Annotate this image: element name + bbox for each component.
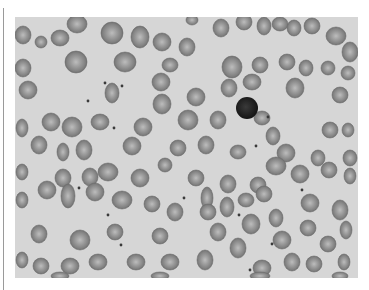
red-blood-cell	[284, 253, 300, 271]
red-blood-cell	[151, 272, 169, 278]
red-blood-cell	[287, 20, 301, 36]
red-blood-cell	[186, 17, 198, 25]
red-blood-cell	[152, 73, 170, 91]
red-blood-cell	[343, 150, 357, 166]
red-blood-cell	[213, 19, 229, 37]
red-blood-cell	[220, 197, 234, 217]
red-blood-cell	[179, 38, 195, 56]
platelet	[78, 187, 81, 190]
red-blood-cell	[332, 272, 348, 278]
platelet	[107, 214, 110, 217]
red-blood-cell	[221, 79, 237, 97]
red-blood-cell	[187, 88, 205, 106]
red-blood-cell	[198, 136, 214, 154]
red-blood-cell	[35, 36, 47, 48]
red-blood-cell	[76, 140, 92, 160]
red-blood-cell	[61, 184, 75, 208]
platelet	[249, 269, 252, 272]
platelet	[301, 189, 304, 192]
red-blood-cell	[89, 254, 107, 270]
red-blood-cell	[238, 193, 254, 207]
red-blood-cell	[320, 236, 336, 252]
red-blood-cell	[152, 228, 168, 244]
red-blood-cell	[62, 117, 82, 137]
red-blood-cell	[250, 272, 270, 278]
red-blood-cell	[33, 258, 49, 274]
red-blood-cell	[321, 61, 335, 75]
red-blood-cell	[178, 110, 198, 130]
red-blood-cell	[153, 33, 171, 51]
red-blood-cell	[170, 140, 186, 156]
red-blood-cell	[286, 78, 304, 98]
red-blood-cell	[322, 122, 338, 138]
red-blood-cell	[98, 163, 118, 181]
red-blood-cell	[123, 137, 141, 155]
blood-cells-canvas	[15, 17, 358, 278]
red-blood-cell	[242, 214, 260, 234]
red-blood-cell	[301, 194, 319, 212]
red-blood-cell	[326, 27, 346, 45]
red-blood-cell	[220, 175, 236, 193]
red-blood-cell	[344, 168, 356, 184]
red-blood-cell	[236, 17, 252, 30]
lymphocyte	[236, 97, 258, 119]
platelet	[238, 214, 241, 217]
red-blood-cell	[67, 17, 87, 33]
red-blood-cell	[127, 254, 145, 270]
red-blood-cell	[340, 221, 352, 239]
red-blood-cell	[342, 123, 354, 137]
platelet	[267, 116, 270, 119]
red-blood-cell	[101, 22, 123, 44]
left-border-rule	[3, 8, 4, 290]
red-blood-cell	[167, 203, 183, 221]
red-blood-cell	[341, 66, 355, 80]
red-blood-cell	[153, 94, 171, 114]
red-blood-cell	[230, 145, 246, 159]
red-blood-cell	[256, 186, 272, 202]
platelet	[120, 244, 123, 247]
red-blood-cell	[158, 158, 172, 172]
platelet	[271, 243, 274, 246]
red-blood-cell	[15, 26, 31, 44]
platelet	[113, 127, 116, 130]
lymphocyte-cell	[236, 97, 258, 119]
red-blood-cell	[16, 252, 28, 268]
red-blood-cell	[91, 114, 109, 130]
red-blood-cell	[222, 56, 242, 78]
red-blood-cell	[162, 58, 178, 72]
red-blood-cell	[51, 30, 69, 46]
red-blood-cell	[86, 183, 104, 201]
red-blood-cell	[342, 42, 358, 62]
red-blood-cell	[61, 258, 79, 274]
red-blood-cell	[38, 181, 56, 199]
red-blood-cell	[51, 272, 69, 278]
red-blood-cell	[42, 113, 60, 131]
red-blood-cell	[266, 157, 286, 175]
red-blood-cell	[321, 162, 337, 178]
red-blood-cell	[299, 60, 313, 76]
red-blood-cell	[311, 150, 325, 166]
platelet	[104, 82, 107, 85]
red-blood-cell	[279, 54, 295, 70]
red-blood-cell	[131, 169, 149, 187]
red-blood-cell	[210, 111, 226, 129]
red-blood-cell	[243, 74, 261, 90]
red-blood-cell	[304, 18, 320, 34]
platelet	[183, 197, 186, 200]
red-blood-cell	[188, 170, 204, 186]
red-blood-cell	[338, 254, 350, 270]
red-blood-cell	[16, 192, 28, 208]
red-blood-cell	[200, 204, 216, 220]
red-blood-cell	[197, 250, 213, 270]
platelet	[255, 145, 258, 148]
red-blood-cell	[19, 81, 37, 99]
red-blood-cell	[252, 57, 268, 73]
red-blood-cell	[144, 196, 160, 212]
red-blood-cell	[16, 119, 28, 137]
red-blood-cell	[272, 17, 288, 31]
red-blood-cell	[332, 200, 348, 220]
red-blood-cell	[230, 238, 246, 258]
red-blood-cell	[15, 59, 31, 77]
red-blood-cell	[112, 191, 132, 209]
red-blood-cell	[107, 224, 123, 240]
